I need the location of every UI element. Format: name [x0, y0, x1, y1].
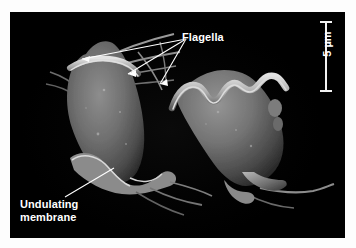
scale-bar-label: 5 µm: [321, 24, 333, 64]
micrograph-panel: Flagella Undulating membrane 5 µm: [10, 12, 345, 238]
scale-bar-cap-bottom: [320, 90, 332, 92]
figure-root: Flagella Undulating membrane 5 µm: [0, 0, 356, 248]
scale-bar: 5 µm: [315, 21, 345, 111]
cell-right: [172, 70, 334, 208]
label-undulating-membrane: Undulating membrane: [20, 198, 78, 223]
label-flagella: Flagella: [182, 31, 224, 44]
cell-left: [46, 34, 212, 215]
